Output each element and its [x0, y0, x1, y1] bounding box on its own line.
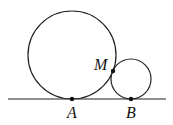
geometry-diagram: M A B — [0, 0, 173, 125]
label-a: A — [66, 104, 77, 121]
point-m — [111, 69, 115, 73]
label-b: B — [126, 104, 136, 121]
point-a — [70, 97, 74, 101]
small-circle — [111, 59, 151, 99]
label-m: M — [93, 56, 109, 73]
point-b — [129, 97, 133, 101]
large-circle — [28, 11, 116, 99]
